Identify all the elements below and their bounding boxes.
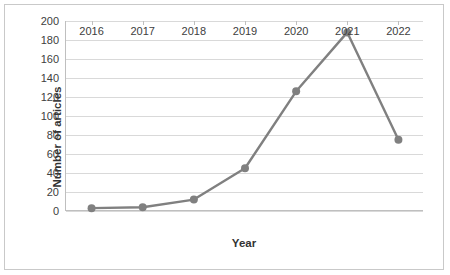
y-tick-label: 160 (19, 53, 59, 65)
x-tick-label: 2021 (335, 25, 359, 37)
plot-area: 2016201720182019202020212022 (65, 21, 423, 211)
x-tick-label: 2019 (233, 25, 257, 37)
y-tick-label: 140 (19, 72, 59, 84)
series-line (92, 32, 399, 208)
y-tick-label: 100 (19, 110, 59, 122)
x-tick-label: 2017 (130, 25, 154, 37)
gridline (66, 211, 423, 212)
data-point (139, 203, 147, 211)
y-tick-label: 180 (19, 34, 59, 46)
x-tick-label: 2016 (79, 25, 103, 37)
y-tick-label: 0 (19, 205, 59, 217)
data-point (292, 87, 300, 95)
y-tick-label: 20 (19, 186, 59, 198)
data-point (241, 164, 249, 172)
y-tick-label: 120 (19, 91, 59, 103)
y-tick-label: 80 (19, 129, 59, 141)
x-tick-label: 2020 (284, 25, 308, 37)
y-tick-label: 60 (19, 148, 59, 160)
data-point (88, 204, 96, 212)
x-tick-label: 2018 (182, 25, 206, 37)
data-point (190, 196, 198, 204)
x-tick-label: 2022 (386, 25, 410, 37)
y-tick-label: 200 (19, 15, 59, 27)
chart-container: Number of articles 201620172018201920202… (4, 4, 444, 270)
line-series (66, 21, 424, 211)
y-tick-label: 40 (19, 167, 59, 179)
data-point (394, 136, 402, 144)
x-axis-title: Year (65, 237, 423, 249)
